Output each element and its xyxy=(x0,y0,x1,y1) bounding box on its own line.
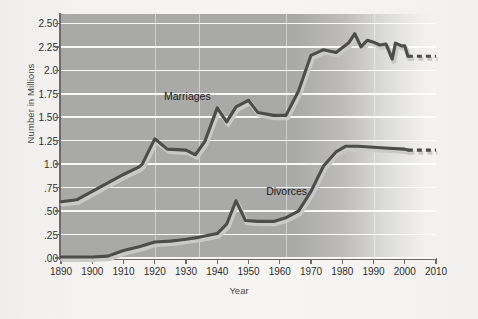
data-lines xyxy=(0,0,478,319)
y-tick-mark xyxy=(55,257,60,258)
y-tick-mark xyxy=(55,117,60,118)
y-tick-mark xyxy=(55,23,60,24)
page-caption-cropped xyxy=(0,312,478,319)
y-tick-mark xyxy=(55,210,60,211)
y-tick-mark xyxy=(55,234,60,235)
y-tick-mark xyxy=(55,46,60,47)
y-tick-mark xyxy=(55,187,60,188)
marriages-divorces-line-chart: Number in Millions .00.25.50.751.01.251.… xyxy=(0,0,478,319)
series-line-divorces xyxy=(61,146,408,257)
y-tick-mark xyxy=(55,70,60,71)
y-tick-mark xyxy=(55,140,60,141)
y-tick-mark xyxy=(55,163,60,164)
y-tick-mark xyxy=(55,93,60,94)
